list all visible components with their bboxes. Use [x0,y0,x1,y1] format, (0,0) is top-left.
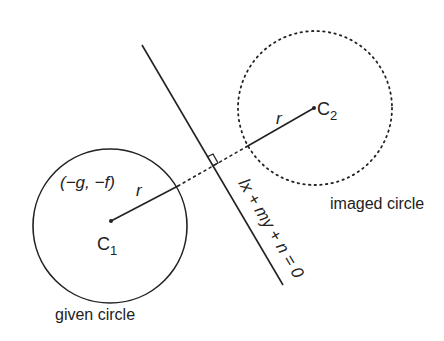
reflection-diagram: (−g, −f) r C1 given circle r C2 imaged c… [0,0,444,341]
center-dot-c1 [109,219,113,223]
given-radius-line [111,186,178,221]
perpendicular-connector [178,147,246,186]
given-center-label: C1 [97,234,117,258]
given-radius-label: r [136,181,143,200]
given-center-letter: C [97,234,110,254]
given-coords-label: (−g, −f) [60,173,115,192]
given-circle-label: given circle [55,306,135,323]
mirror-line [142,45,283,285]
center-dot-c2 [312,106,316,110]
imaged-center-label: C2 [317,99,337,123]
imaged-radius-label: r [276,109,283,128]
imaged-center-sub: 2 [330,108,337,123]
imaged-circle-label: imaged circle [330,195,424,212]
imaged-center-letter: C [317,99,330,119]
given-center-sub: 1 [110,243,117,258]
